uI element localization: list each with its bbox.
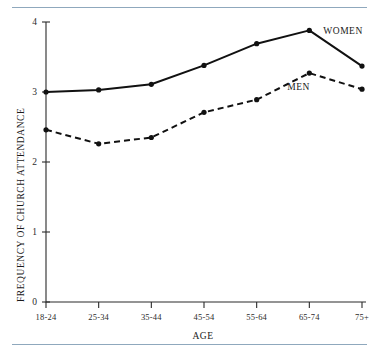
data-marker-men bbox=[201, 110, 206, 115]
x-category-label: 35-44 bbox=[141, 312, 162, 322]
x-category-label: 18-24 bbox=[36, 312, 57, 322]
series-line-men bbox=[46, 73, 362, 144]
x-category-label: 55-64 bbox=[246, 312, 267, 322]
x-axis-title: AGE bbox=[192, 331, 213, 341]
chart-figure: 01234 18-2425-3435-4445-5455-6465-7475+ … bbox=[0, 0, 379, 357]
x-category-label: 65-74 bbox=[299, 312, 320, 322]
series-label-men: MEN bbox=[287, 82, 310, 92]
data-marker-men bbox=[359, 87, 364, 92]
data-marker-men bbox=[43, 127, 48, 132]
x-category-label: 45-54 bbox=[194, 312, 215, 322]
y-tick-label: 1 bbox=[32, 227, 37, 237]
data-marker-women bbox=[96, 87, 101, 92]
y-tick-label: 2 bbox=[32, 157, 37, 167]
data-marker-women bbox=[43, 89, 48, 94]
data-marker-women bbox=[254, 41, 259, 46]
y-tick-label: 3 bbox=[32, 87, 37, 97]
data-marker-men bbox=[254, 97, 259, 102]
y-tick-label: 4 bbox=[32, 17, 37, 27]
data-marker-men bbox=[96, 141, 101, 146]
y-tick-label: 0 bbox=[32, 297, 37, 307]
x-category-label: 25-34 bbox=[88, 312, 109, 322]
series-label-women: WOMEN bbox=[323, 26, 362, 36]
data-marker-women bbox=[359, 64, 364, 69]
y-axis-tick-labels: 01234 bbox=[32, 17, 37, 307]
y-axis-title: FREQUENCY OF CHURCH ATTENDANCE bbox=[16, 108, 26, 302]
series-line-women bbox=[46, 30, 362, 92]
data-marker-men bbox=[149, 135, 154, 140]
data-marker-men bbox=[307, 71, 312, 76]
line-chart-plot: 01234 18-2425-3435-4445-5455-6465-7475+ … bbox=[0, 0, 379, 357]
x-category-label: 75+ bbox=[355, 312, 369, 322]
chart-series-lines bbox=[46, 30, 362, 143]
data-marker-women bbox=[201, 63, 206, 68]
x-axis-category-labels: 18-2425-3435-4445-5455-6465-7475+ bbox=[36, 312, 369, 322]
data-marker-women bbox=[149, 82, 154, 87]
data-marker-women bbox=[307, 28, 312, 33]
chart-data-markers bbox=[43, 28, 364, 147]
